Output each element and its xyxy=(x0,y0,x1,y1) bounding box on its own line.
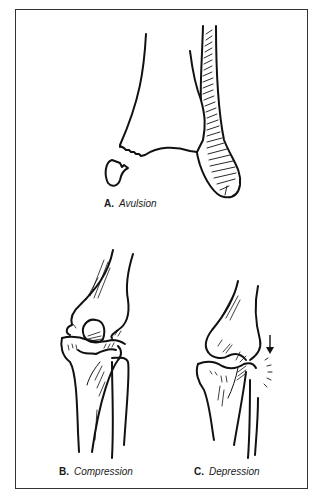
impact-rays-icon xyxy=(264,358,272,387)
caption-label: Depression xyxy=(209,466,260,477)
caption-compression: B.Compression xyxy=(59,466,133,478)
impact-arrow-icon xyxy=(266,335,274,354)
caption-label: Avulsion xyxy=(119,198,157,209)
avulsion-illustration xyxy=(0,0,320,230)
compression-illustration xyxy=(0,230,160,499)
caption-depression: C.Depression xyxy=(194,466,260,478)
caption-avulsion: A.Avulsion xyxy=(104,198,157,210)
caption-letter: C. xyxy=(194,466,204,477)
panel-compression xyxy=(0,230,160,499)
depression-illustration xyxy=(160,230,320,499)
caption-letter: B. xyxy=(59,466,69,477)
panel-avulsion xyxy=(0,0,320,230)
caption-label: Compression xyxy=(74,466,133,477)
panel-depression xyxy=(160,230,320,499)
caption-letter: A. xyxy=(104,198,114,209)
